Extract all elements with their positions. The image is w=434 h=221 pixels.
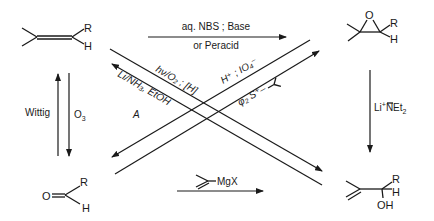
diagonal-arrows: hν/O₂ ; [H] Li/NH₃, EtOH A H⁺ ; IO₄⁻ φ₂ … [110,40,322,185]
ozone-label: O3 [74,109,86,122]
base-rearrangement-arrow: Li+NEt2 [370,70,407,152]
grignard-label: MgX [217,176,238,187]
grignard-arrow: MgX [177,175,263,191]
epoxide-O-label: O [365,9,374,21]
wittig-ozonolysis-arrows: Wittig O3 [25,73,86,156]
alcohol-R-label: R [392,173,400,185]
reaction-scheme: R H aq. NBS ; Base or Peracid O R H Witt… [0,0,434,221]
epoxidation-reagent-line2: or Peracid [193,40,239,51]
alcohol-OH-label: OH [377,199,394,211]
alcohol-H-label: H [392,186,400,198]
epoxide-H-label: H [390,33,398,45]
alkene-H-label: H [84,40,92,52]
aldehyde-O-label: O [42,190,51,202]
aldehyde-H-label: H [82,202,90,214]
wittig-label: Wittig [25,107,50,118]
epoxidation-reagent-line1: aq. NBS ; Base [182,21,251,32]
epoxide-structure: O R H [347,9,398,45]
alkene-R-label: R [84,22,92,34]
alkene-structure: R H [22,22,92,52]
aldehyde-R-label: R [80,176,88,188]
periodate-cleavage-label: H⁺ ; IO₄⁻ [219,56,260,86]
epoxidation-arrow: aq. NBS ; Base or Peracid [148,21,286,51]
aldehyde-structure: O R H [42,176,90,214]
sulfonium-ylide-label: φ₂ S⁺– [236,83,268,108]
birch-annotation-A: A [132,109,140,120]
allylic-alcohol-structure: R H OH [346,173,400,211]
epoxide-R-label: R [390,17,398,29]
